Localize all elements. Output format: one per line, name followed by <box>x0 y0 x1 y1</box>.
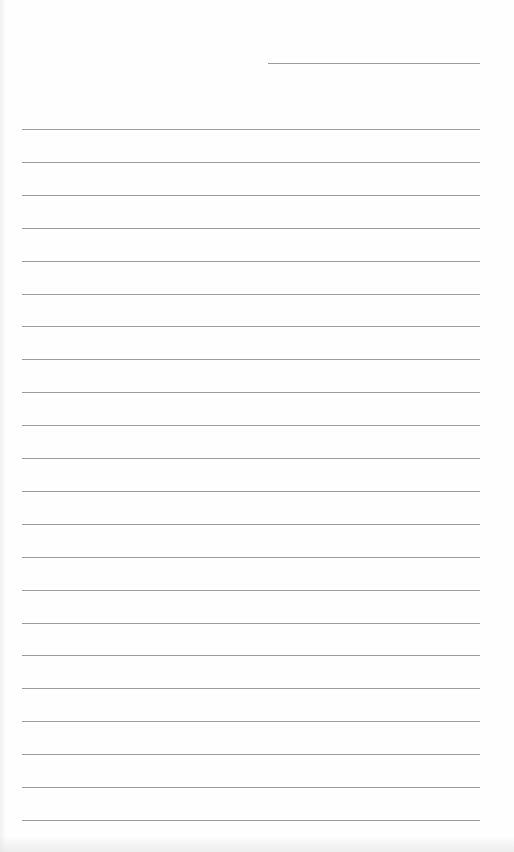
ruled-line <box>22 195 480 196</box>
ruled-line <box>22 557 480 558</box>
ruled-line <box>22 458 480 459</box>
ruled-line <box>22 524 480 525</box>
ruled-line <box>22 392 480 393</box>
ruled-line <box>22 623 480 624</box>
ruled-line <box>22 294 480 295</box>
scan-edge-shadow <box>0 0 6 852</box>
ruled-line <box>22 261 480 262</box>
lined-paper-page <box>0 0 514 852</box>
ruled-line <box>22 162 480 163</box>
ruled-line <box>22 590 480 591</box>
ruled-line <box>22 228 480 229</box>
ruled-line <box>22 655 480 656</box>
scan-bottom-band <box>0 836 514 852</box>
header-line <box>268 63 480 64</box>
ruled-line <box>22 425 480 426</box>
ruled-line <box>22 129 480 130</box>
ruled-line <box>22 820 480 821</box>
ruled-line <box>22 359 480 360</box>
ruled-line <box>22 688 480 689</box>
ruled-line <box>22 754 480 755</box>
ruled-line <box>22 491 480 492</box>
ruled-line <box>22 721 480 722</box>
ruled-line <box>22 787 480 788</box>
ruled-line <box>22 326 480 327</box>
